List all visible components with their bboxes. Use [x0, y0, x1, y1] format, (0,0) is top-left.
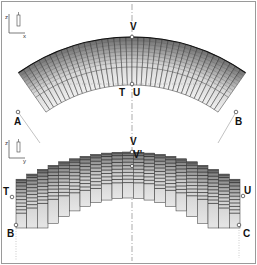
axis-label-x: x [23, 33, 26, 39]
point-v-marker [130, 35, 134, 39]
axis-glyph-bottom [9, 139, 25, 158]
label-b: B [235, 117, 242, 127]
diagram-frame: z x z y A B V T U V V' T B U C [0, 0, 257, 265]
label-t: T [119, 88, 125, 98]
label-v: V [130, 22, 137, 32]
axis-label-z-bottom: z [5, 140, 8, 146]
point-tu-marker [130, 82, 134, 86]
axis-glyph-top [9, 12, 25, 33]
axis-label-y: y [23, 158, 26, 164]
label-a: A [14, 117, 21, 127]
point-t-bottom-marker [10, 195, 14, 199]
point-b-bottom-marker [14, 223, 18, 227]
point-c-marker [237, 223, 241, 227]
guide-line-a [18, 112, 40, 143]
label-u: U [133, 88, 140, 98]
label-t-bottom: T [3, 187, 9, 197]
bottom-view-columns [16, 152, 240, 228]
label-c: C [243, 229, 250, 239]
label-b-bottom: B [7, 229, 14, 239]
diagram-canvas [0, 0, 257, 265]
axis-label-z-top: z [5, 14, 8, 20]
point-a-marker [16, 110, 20, 114]
label-v-prime: V' [133, 150, 142, 160]
point-v-prime-marker [130, 164, 133, 167]
label-v-bottom: V [130, 137, 137, 147]
guide-line-b [218, 112, 236, 143]
point-b-marker [234, 110, 238, 114]
label-u-bottom: U [244, 186, 251, 196]
